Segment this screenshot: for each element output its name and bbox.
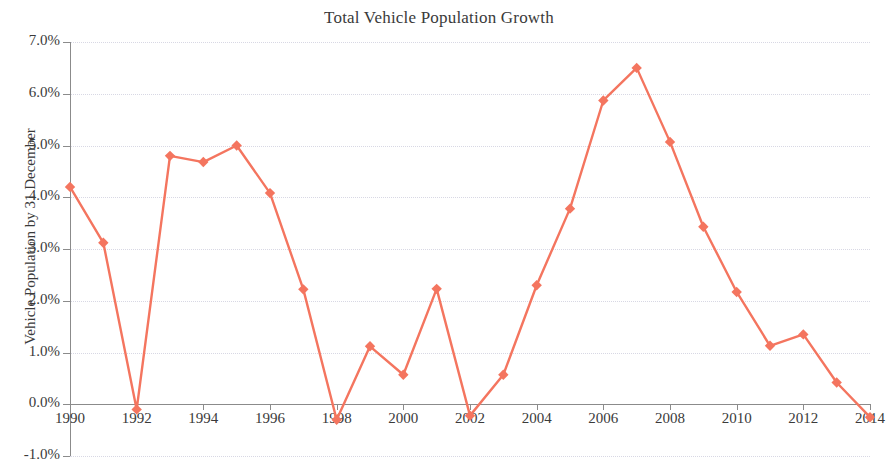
y-tick-label: 7.0% <box>0 32 60 49</box>
x-tick-label: 1998 <box>302 410 372 427</box>
x-tick-label: 1990 <box>35 410 105 427</box>
x-tick-label: 1996 <box>235 410 305 427</box>
x-tick-label: 2010 <box>702 410 772 427</box>
gridline <box>70 456 870 457</box>
x-tick-label: 2006 <box>568 410 638 427</box>
y-tick-label: 0.0% <box>0 394 60 411</box>
gridline <box>70 94 870 95</box>
plot-area <box>70 42 870 456</box>
y-tick-mark <box>63 353 70 354</box>
y-tick-label: 3.0% <box>0 239 60 256</box>
gridline <box>70 301 870 302</box>
x-tick-label: 2002 <box>435 410 505 427</box>
gridline <box>70 146 870 147</box>
gridline <box>70 42 870 43</box>
y-tick-mark <box>63 404 70 405</box>
y-tick-label: 2.0% <box>0 291 60 308</box>
gridline <box>70 249 870 250</box>
x-tick-label: 2004 <box>502 410 572 427</box>
y-tick-label: 4.0% <box>0 187 60 204</box>
y-tick-mark <box>63 456 70 457</box>
x-tick-label: 2012 <box>768 410 838 427</box>
y-tick-mark <box>63 249 70 250</box>
gridline <box>70 197 870 198</box>
y-tick-mark <box>63 197 70 198</box>
y-tick-label: 1.0% <box>0 343 60 360</box>
y-tick-label: 5.0% <box>0 136 60 153</box>
chart-title: Total Vehicle Population Growth <box>0 8 878 28</box>
y-tick-mark <box>63 42 70 43</box>
y-axis-line <box>70 42 71 456</box>
y-tick-label: 6.0% <box>0 84 60 101</box>
x-tick-label: 1994 <box>168 410 238 427</box>
x-tick-label: 1992 <box>102 410 172 427</box>
x-tick-label: 2000 <box>368 410 438 427</box>
x-tick-label: 2008 <box>635 410 705 427</box>
x-tick-label: 2014 <box>835 410 890 427</box>
y-tick-mark <box>63 146 70 147</box>
y-tick-label: -1.0% <box>0 446 60 462</box>
gridline <box>70 353 870 354</box>
y-tick-mark <box>63 94 70 95</box>
y-axis-title: Vehicle Population by 31 December <box>22 57 39 417</box>
y-tick-mark <box>63 301 70 302</box>
